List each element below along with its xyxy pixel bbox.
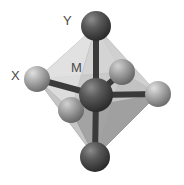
atom-axial-bottom: [80, 142, 110, 172]
octahedral-complex-figure: Y X M: [0, 0, 184, 185]
atom-equatorial-right: [145, 81, 171, 107]
atom-equatorial-back: [109, 59, 135, 85]
atom-center-M: [79, 78, 113, 112]
atom-axial-top-Y: [81, 11, 111, 41]
label-equatorial-left-X: X: [11, 69, 20, 82]
label-center-M: M: [71, 61, 82, 74]
label-axial-top-Y: Y: [63, 14, 72, 27]
atom-equatorial-left-X: [24, 66, 50, 92]
molecule-svg: [0, 0, 184, 185]
